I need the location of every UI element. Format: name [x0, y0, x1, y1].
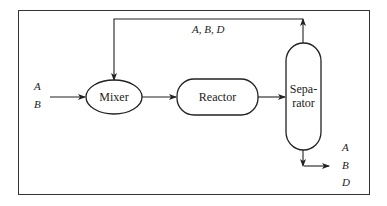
recycle-label: A, B, D [192, 23, 224, 35]
separator-label-line2: rator [286, 96, 321, 110]
feed-label-a: A [34, 80, 41, 92]
separator-label-line1: Sepa- [286, 82, 321, 96]
feed-label-b: B [34, 98, 41, 110]
product-label-a: A [342, 141, 349, 153]
mixer-label: Mixer [86, 90, 142, 104]
reactor-label: Reactor [177, 90, 258, 104]
product-label-d: D [342, 176, 350, 188]
separator-label: Sepa- rator [286, 82, 321, 110]
product-label-b: B [342, 159, 349, 171]
